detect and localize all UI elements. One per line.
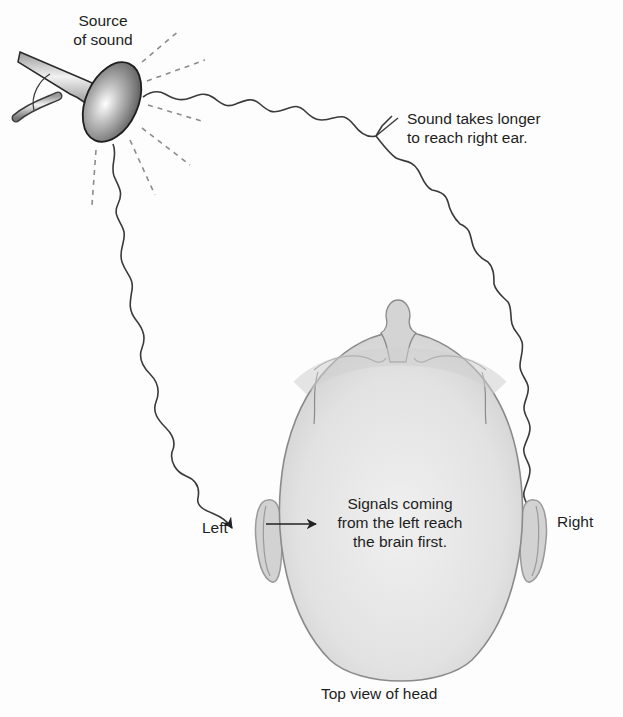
signals-label: Signals coming from the left reach the b…: [316, 494, 484, 551]
left-ear-label: Left: [202, 518, 228, 537]
right-ear: [520, 500, 547, 582]
caption: Top view of head: [321, 684, 437, 703]
diagram-graphics: [0, 0, 623, 717]
head-top-view: [256, 300, 547, 681]
horn-icon: [16, 52, 153, 151]
sound-takes-longer-label: Sound takes longer to reach right ear.: [407, 109, 541, 147]
source-label-line-1: Source: [58, 11, 148, 30]
signals-label-line-1: Signals coming: [316, 494, 484, 513]
sound-wave-left: [113, 144, 232, 528]
signals-label-line-3: the brain first.: [316, 532, 484, 551]
sound-localization-diagram: Source of sound Sound takes longer to re…: [0, 0, 623, 717]
longer-label-line-2: to reach right ear.: [407, 128, 541, 147]
longer-label-line-1: Sound takes longer: [407, 109, 541, 128]
signals-label-line-2: from the left reach: [316, 513, 484, 532]
source-label-line-2: of sound: [58, 30, 148, 49]
right-ear-label: Right: [557, 512, 593, 531]
source-of-sound-label: Source of sound: [58, 11, 148, 49]
left-ear: [256, 500, 283, 582]
